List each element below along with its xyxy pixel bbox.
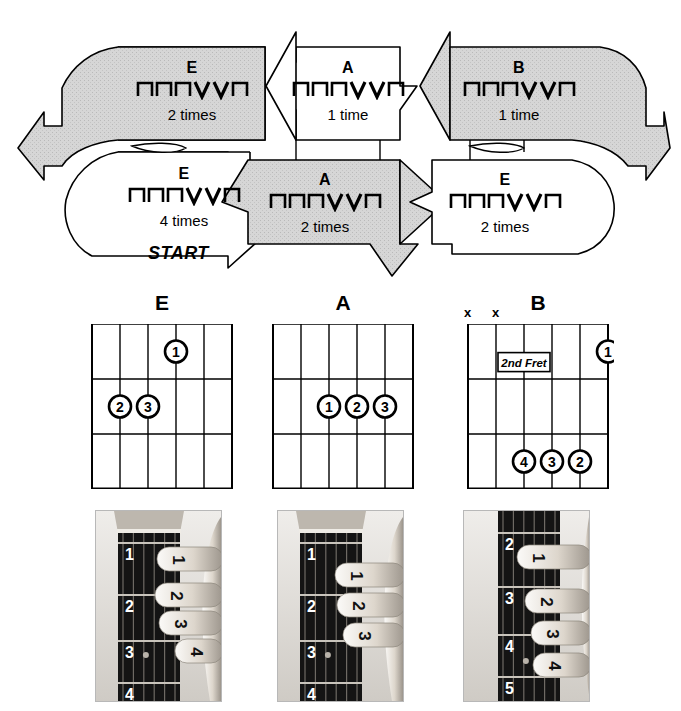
downstroke-icon (223, 186, 241, 206)
connector-right (470, 143, 524, 152)
flow-cell-6[interactable]: E 2 times (438, 172, 572, 234)
upstroke-icon (368, 80, 386, 100)
finger: 2 (337, 593, 403, 617)
start-label: START (148, 243, 209, 264)
chord-photo-row: 12341234 1234123 23451234 (0, 510, 681, 711)
flow-cell-2-times: 1 time (288, 107, 408, 122)
downstroke-icon (364, 192, 382, 212)
downstroke-icon (147, 186, 165, 206)
downstroke-icon (136, 80, 154, 100)
chord-photo-A[interactable]: 1234123 (277, 510, 404, 702)
photo-fret-number: 2 (125, 598, 134, 615)
photo-finger-number: 1 (347, 571, 366, 580)
upstroke-icon (204, 186, 222, 206)
photo-fret-number: 4 (125, 686, 134, 701)
chord-diagram-row: E 123 A 123 B xx 2nd Fret1432 (0, 292, 681, 507)
photo-finger-number: 1 (169, 555, 188, 564)
flow-cell-5-pattern (258, 192, 392, 214)
finger-marker: 2 (346, 396, 368, 418)
photo-fret-number: 3 (307, 644, 316, 661)
finger-marker: 1 (318, 396, 340, 418)
fretboard-grid: 123 (267, 324, 419, 489)
hand-on-fretboard-photo: 12341234 (96, 511, 221, 701)
finger: 3 (159, 611, 221, 635)
flow-arrows-svg (0, 0, 681, 290)
chord-diagram-E[interactable]: E 123 (72, 292, 252, 507)
finger-marker: 3 (541, 451, 563, 473)
upstroke-icon (525, 192, 543, 212)
photo-fret-number: 4 (505, 638, 514, 655)
flow-cell-6-pattern (438, 192, 572, 214)
photo-fret-number: 3 (125, 644, 134, 661)
downstroke-icon (501, 80, 519, 100)
mute-x-icon: x (492, 306, 499, 319)
mute-marks-E (86, 306, 238, 322)
photo-fret-number: 1 (125, 546, 134, 563)
photo-finger-number: 3 (543, 629, 562, 638)
photo-fret-number: 3 (505, 590, 514, 607)
flow-cell-4[interactable]: E 4 times (118, 166, 250, 228)
flow-cell-4-times: 4 times (118, 213, 250, 228)
finger: 4 (175, 639, 221, 663)
finger-number: 3 (381, 399, 389, 415)
chord-grid-E: 123 (86, 324, 238, 489)
photo-finger-number: 4 (545, 661, 564, 671)
finger-marker: 2 (109, 396, 131, 418)
finger: 4 (533, 653, 589, 677)
flow-cell-1-times: 2 times (120, 107, 264, 122)
flow-cell-1[interactable]: E 2 times (120, 60, 264, 122)
flow-cell-5[interactable]: A 2 times (258, 172, 392, 234)
upstroke-icon (539, 80, 557, 100)
flow-cell-5-chord: A (258, 172, 392, 188)
upstroke-icon (212, 80, 230, 100)
photo-fret-number: 2 (505, 536, 514, 553)
photo-finger-number: 4 (187, 647, 206, 657)
downstroke-icon (155, 80, 173, 100)
downstroke-icon (288, 192, 306, 212)
fret-inlay-dot (325, 652, 331, 658)
chord-diagram-B[interactable]: B xx 2nd Fret1432 (448, 292, 628, 507)
downstroke-icon (269, 192, 287, 212)
chord-diagram-A[interactable]: A 123 (253, 292, 433, 507)
photo-finger-number: 3 (355, 631, 374, 640)
finger-marker: 2 (569, 451, 591, 473)
hand-on-fretboard-photo: 23451234 (464, 511, 589, 701)
arrow-cell-3 (420, 32, 450, 140)
mute-marks-A (267, 306, 419, 322)
chord-photo-B[interactable]: 23451234 (463, 510, 590, 702)
strum-flow-diagram: E 2 times A 1 time B 1 time E 4 times A … (0, 0, 681, 290)
finger-number: 3 (548, 454, 556, 470)
position-label-text: 2nd Fret (500, 357, 548, 369)
upstroke-icon (345, 192, 363, 212)
upstroke-icon (185, 186, 203, 206)
finger-marker: 4 (513, 451, 535, 473)
flow-cell-2[interactable]: A 1 time (288, 60, 408, 122)
downstroke-icon (487, 192, 505, 212)
finger: 1 (157, 547, 221, 571)
fret-inlay-dot (523, 658, 529, 664)
finger-number: 2 (576, 454, 584, 470)
upstroke-icon (326, 192, 344, 212)
finger-number: 1 (172, 344, 180, 360)
downstroke-icon (166, 186, 184, 206)
flow-cell-3-chord: B (452, 60, 586, 76)
flow-cell-3[interactable]: B 1 time (452, 60, 586, 122)
finger-marker: 1 (597, 341, 614, 363)
flow-cell-2-chord: A (288, 60, 408, 76)
chord-photo-E[interactable]: 12341234 (95, 510, 222, 702)
flow-cell-1-pattern (120, 80, 264, 102)
downstroke-icon (307, 192, 325, 212)
flow-cell-2-pattern (288, 80, 408, 102)
fretboard-grid: 123 (86, 324, 238, 489)
downstroke-icon (468, 192, 486, 212)
flow-cell-3-pattern (452, 80, 586, 102)
photo-finger-number: 1 (529, 553, 548, 562)
photo-fret-number: 5 (505, 680, 514, 697)
finger: 2 (155, 583, 221, 607)
connector-left (132, 143, 186, 152)
flow-cell-3-times: 1 time (452, 107, 586, 122)
flow-cell-4-chord: E (118, 166, 250, 182)
upstroke-icon (520, 80, 538, 100)
downstroke-icon (174, 80, 192, 100)
photo-finger-number: 2 (349, 601, 368, 610)
